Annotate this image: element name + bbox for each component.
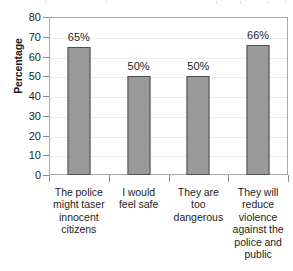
y-tick-label: 30 <box>1 111 41 122</box>
cropped-text-remnant <box>0 0 293 6</box>
y-tick-label: 20 <box>1 131 41 142</box>
x-tick-mark <box>49 175 50 182</box>
bar-slot: 66% <box>228 17 288 175</box>
x-category-label: I wouldfeel safe <box>109 186 169 211</box>
y-tick-label: 50 <box>1 71 41 82</box>
y-tick-label: 0 <box>1 170 41 181</box>
bar[interactable] <box>247 45 270 175</box>
bars-group: 65%50%50%66% <box>49 17 288 175</box>
x-category-label: The policemight taserinnocentcitizens <box>49 186 109 236</box>
x-tick-mark <box>169 175 170 182</box>
y-tick-label: 40 <box>1 91 41 102</box>
bar[interactable] <box>187 76 210 175</box>
y-tick-label: 80 <box>1 12 41 23</box>
x-tick-mark <box>109 175 110 182</box>
y-tick-label: 10 <box>1 150 41 161</box>
x-tick-mark <box>228 175 229 182</box>
bar[interactable] <box>127 76 150 175</box>
bar-value-label: 65% <box>68 32 90 43</box>
y-tick-label: 60 <box>1 52 41 63</box>
y-axis-title: Percentage <box>12 6 24 126</box>
bar-chart: Percentage 01020304050607080 65%50%50%66… <box>0 0 293 271</box>
bar-value-label: 66% <box>247 30 269 41</box>
x-tick-mark <box>288 175 289 182</box>
bar-slot: 50% <box>169 17 229 175</box>
x-category-label: They willreduceviolenceagainst thepolice… <box>228 186 288 260</box>
bar-slot: 65% <box>49 17 109 175</box>
bar[interactable] <box>67 47 90 175</box>
bar-value-label: 50% <box>128 61 150 72</box>
bar-slot: 50% <box>109 17 169 175</box>
bar-value-label: 50% <box>187 61 209 72</box>
y-tick-label: 70 <box>1 32 41 43</box>
x-category-label: They aretoodangerous <box>169 186 229 223</box>
